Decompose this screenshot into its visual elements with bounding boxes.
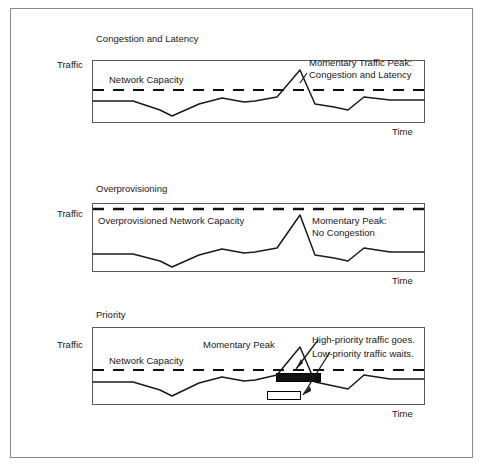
low-priority-traffic-bar-icon bbox=[267, 391, 301, 400]
peak-label-priority: Momentary Peak bbox=[203, 339, 275, 350]
annotation-priority-high: High-priority traffic goes. bbox=[312, 334, 415, 346]
capacity-label-priority: Network Capacity bbox=[109, 355, 183, 366]
high-priority-traffic-bar-icon bbox=[276, 373, 321, 382]
x-axis-label-time-priority: Time bbox=[392, 408, 413, 419]
figure-root: Congestion and Latency Traffic Network C… bbox=[0, 0, 485, 469]
y-axis-label-traffic-priority: Traffic bbox=[57, 339, 83, 350]
annotation-priority-low: Low-priority traffic waits. bbox=[312, 348, 414, 360]
panel-title-priority: Priority bbox=[96, 309, 126, 320]
panel-priority: Priority Traffic Network Capacity Moment… bbox=[0, 0, 485, 469]
